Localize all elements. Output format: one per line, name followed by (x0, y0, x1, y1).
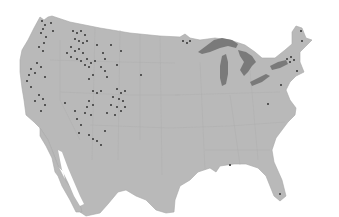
us-map (0, 0, 339, 217)
